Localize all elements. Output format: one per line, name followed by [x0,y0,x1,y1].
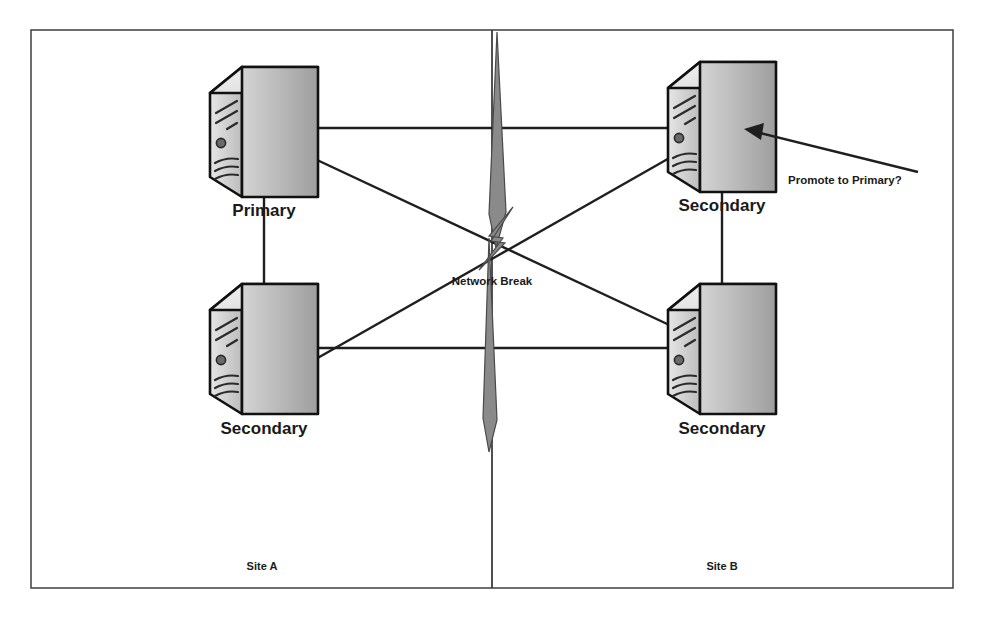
promote-annotation-label: Promote to Primary? [788,174,902,186]
node-label-secondary-b-top: Secondary [679,196,766,215]
diagram-canvas: Primary Secondary Secondary Secondary Ne… [0,0,981,620]
server-icon [668,284,776,414]
node-secondary-b-bottom[interactable]: Secondary [668,284,776,438]
server-icon [210,67,318,197]
node-label-secondary-b-bottom: Secondary [679,419,766,438]
network-break-label: Network Break [452,275,533,287]
node-label-primary: Primary [232,201,296,220]
lightning-bolt-icon [479,32,513,452]
node-secondary-a[interactable]: Secondary [210,284,318,438]
site-label-b: Site B [706,560,737,572]
site-label-a: Site A [247,560,278,572]
server-icon [210,284,318,414]
node-primary[interactable]: Primary [210,67,318,220]
network-break-diagram: Primary Secondary Secondary Secondary Ne… [0,0,981,620]
node-label-secondary-a: Secondary [221,419,308,438]
